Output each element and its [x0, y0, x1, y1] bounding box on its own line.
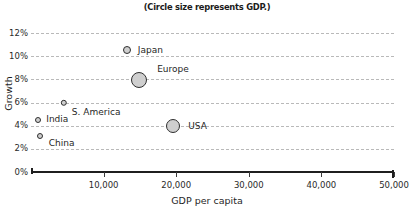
y-axis-title: Growth	[3, 64, 14, 124]
x-axis-line	[31, 171, 394, 173]
data-point-bubble[interactable]	[123, 46, 131, 54]
x-tick-mark	[176, 172, 177, 177]
data-point-bubble[interactable]	[131, 72, 147, 88]
data-point-label: Japan	[138, 45, 163, 55]
y-tick-label: 12%	[9, 29, 28, 38]
x-tick-mark	[249, 172, 250, 177]
x-tick-mark	[104, 172, 105, 177]
x-axis-left-cap	[31, 168, 33, 174]
data-point-bubble[interactable]	[37, 133, 43, 139]
y-tick-label: 0%	[15, 168, 29, 177]
x-tick-label: 20,000	[161, 180, 191, 190]
gridline	[31, 79, 394, 80]
x-tick-label: 40,000	[307, 180, 337, 190]
x-axis-title: GDP per capita	[0, 195, 414, 206]
gridline	[31, 103, 394, 104]
gridline	[31, 33, 394, 34]
x-tick-mark	[394, 172, 395, 177]
data-point-label: India	[46, 114, 68, 124]
x-tick-mark	[321, 172, 322, 177]
chart-title: (Circle size represents GDP.)	[25, 1, 389, 12]
gridline	[31, 56, 394, 57]
data-point-bubble[interactable]	[35, 117, 41, 123]
y-tick-label: 8%	[15, 75, 29, 84]
x-tick-label: 50,000	[379, 180, 409, 190]
gridline	[31, 149, 394, 150]
y-tick-label: 6%	[15, 98, 29, 107]
x-tick-label: 30,000	[234, 180, 264, 190]
gridline	[31, 126, 394, 127]
data-point-label: China	[49, 138, 75, 148]
y-tick-label: 2%	[15, 144, 29, 153]
data-point-bubble[interactable]	[166, 119, 180, 133]
data-point-label: S. America	[72, 107, 121, 117]
y-tick-label: 4%	[15, 121, 29, 130]
bubble-chart: (Circle size represents GDP.) 0%2%4%6%8%…	[0, 0, 414, 213]
data-point-label: Europe	[157, 64, 189, 74]
data-point-label: USA	[188, 121, 207, 131]
x-tick-label: 10,000	[89, 180, 119, 190]
y-tick-label: 10%	[9, 52, 28, 61]
plot-area	[31, 33, 394, 172]
